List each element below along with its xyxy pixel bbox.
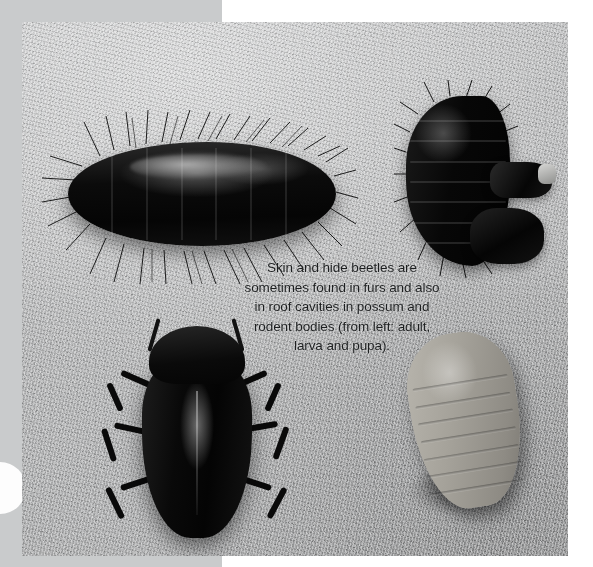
bottom-white-band	[222, 556, 593, 567]
beetle-leg-l1b	[106, 382, 124, 412]
beetle-leg-l2b	[101, 428, 117, 462]
beetle-leg-r3b	[266, 487, 287, 520]
beetle-photograph: Skin and hide beetles are sometimes foun…	[22, 22, 568, 556]
beetle-leg-r2b	[272, 426, 289, 460]
specimen-larva-large	[40, 104, 360, 284]
photo-caption: Skin and hide beetles are sometimes foun…	[222, 258, 462, 356]
specimen-larva-curled	[394, 80, 562, 280]
larva-large-highlight	[130, 154, 270, 180]
caption-line-2: sometimes found in furs and also	[222, 278, 462, 298]
beetle-leg-r1b	[264, 382, 282, 412]
top-white-band	[222, 0, 593, 22]
page-root: Skin and hide beetles are sometimes foun…	[0, 0, 593, 567]
larva-curled-fragment-lower	[470, 208, 544, 264]
beetle-leg-l3b	[105, 486, 125, 519]
caption-line-5: larva and pupa).	[222, 336, 462, 356]
right-white-band	[568, 0, 593, 567]
caption-line-3: in roof cavities in possum and	[222, 297, 462, 317]
larva-curled-fragment-upper	[490, 162, 552, 198]
caption-line-4: rodent bodies (from left: adult,	[222, 317, 462, 337]
caption-line-1: Skin and hide beetles are	[222, 258, 462, 278]
